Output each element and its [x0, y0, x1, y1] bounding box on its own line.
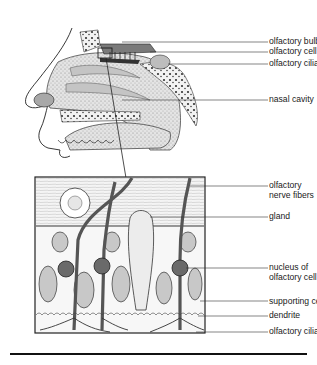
- palate-bone: [60, 110, 140, 122]
- label-dendrite: dendrite: [269, 311, 300, 321]
- label-line: olfactory cell: [269, 273, 317, 283]
- label-olfactory-nerve-fibers: olfactory nerve fibers: [269, 181, 314, 200]
- frontal-bone: [80, 30, 100, 52]
- gland-ring: [60, 188, 90, 218]
- nucleus: [94, 258, 110, 274]
- tissue-detail: [35, 177, 205, 333]
- sinus: [150, 55, 170, 69]
- label-nasal-cavity: nasal cavity: [269, 95, 314, 105]
- label-olfactory-cilia-tissue: olfactory cilia: [269, 327, 317, 337]
- nucleus: [58, 261, 74, 277]
- nucleus: [172, 260, 188, 276]
- label-olfactory-cell: olfactory cell: [269, 47, 317, 57]
- label-gland: gland: [269, 212, 290, 222]
- label-line: nerve fibers: [269, 191, 314, 201]
- nostril: [34, 93, 54, 107]
- label-olfactory-cilia: olfactory cilia: [269, 59, 317, 69]
- label-nucleus-of-olfactory-cell: nucleus of olfactory cell: [269, 263, 317, 282]
- olfactory-bulb-shape: [100, 44, 156, 54]
- label-supporting-cell: supporting cell: [269, 297, 317, 307]
